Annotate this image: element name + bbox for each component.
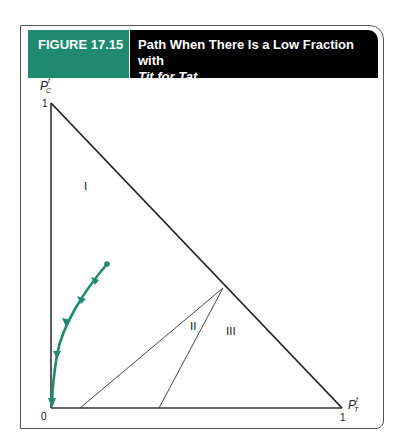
y-max-tick: 1 (42, 98, 48, 109)
y-axis-label: PtC (40, 79, 51, 94)
region-II-label: II (190, 320, 197, 333)
arrowhead-icons (48, 277, 99, 408)
x-max-tick: 1 (340, 412, 346, 423)
trajectory-path (52, 264, 107, 405)
hypotenuse (51, 103, 342, 408)
boundary-line-II (80, 288, 223, 408)
trajectory-start-dot (104, 261, 110, 267)
simplex-diagram (0, 0, 400, 445)
region-I-label: I (84, 180, 87, 193)
x-axis-label: PtT (348, 398, 358, 413)
region-III-label: III (226, 325, 236, 338)
origin-label: 0 (41, 411, 47, 422)
boundary-line-III (159, 288, 223, 408)
